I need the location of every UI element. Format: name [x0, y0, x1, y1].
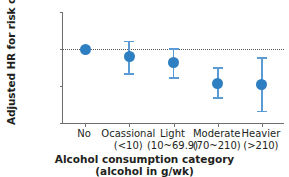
x-axis-title-line2: (alcohol in g/wk)	[0, 165, 289, 177]
y-axis-title: Adjusted HR for risk of CKD	[5, 1, 17, 125]
ci-cap-upper	[213, 67, 223, 69]
ci-cap-lower	[169, 77, 179, 79]
ci-cap-upper	[169, 48, 179, 50]
category-name: No	[77, 128, 91, 140]
ci-cap-lower	[213, 97, 223, 99]
ci-cap-upper	[124, 41, 134, 43]
data-point-marker	[212, 78, 223, 89]
forest-plot-figure: Adjusted HR for risk of CKD 0.250.501.00…	[0, 0, 289, 177]
x-category-label: Heavier(>210)	[242, 128, 281, 152]
x-tick-mark	[262, 123, 263, 127]
category-name: Heavier	[242, 128, 281, 140]
x-tick-mark	[129, 123, 130, 127]
x-category-label: No	[77, 128, 91, 140]
y-tick-mark	[60, 49, 64, 50]
x-axis-category-labels: NoOcassional(<10)Light(10~69.9)Moderate(…	[62, 128, 284, 154]
x-axis-title: Alcohol consumption category (alcohol in…	[0, 153, 289, 177]
data-point-marker	[80, 44, 91, 55]
category-range: (10~69.9)	[147, 140, 198, 152]
x-axis-title-line1: Alcohol consumption category	[0, 153, 289, 165]
y-tick-mark	[60, 12, 64, 13]
ci-cap-upper	[257, 57, 267, 59]
category-name: Moderate	[193, 128, 241, 140]
data-point-marker	[124, 51, 135, 62]
x-category-label: Moderate(70~210)	[193, 128, 241, 152]
data-point-marker	[256, 79, 267, 90]
x-category-label: Light(10~69.9)	[147, 128, 198, 152]
plot-area	[62, 12, 284, 124]
ci-cap-lower	[124, 73, 134, 75]
ci-cap-lower	[257, 111, 267, 113]
category-range: (70~210)	[193, 140, 241, 152]
y-tick-mark	[60, 123, 64, 124]
category-name: Light	[147, 128, 198, 140]
category-range: (>210)	[242, 140, 281, 152]
x-tick-mark	[218, 123, 219, 127]
y-tick-mark	[60, 86, 64, 87]
x-tick-mark	[174, 123, 175, 127]
x-tick-mark	[85, 123, 86, 127]
data-point-marker	[168, 57, 179, 68]
